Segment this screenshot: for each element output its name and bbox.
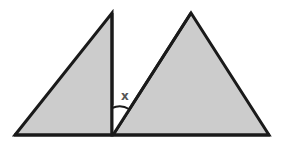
- angle-x-label: x: [121, 89, 129, 103]
- right-triangle: [113, 13, 269, 135]
- geometry-diagram: x: [0, 0, 282, 144]
- diagram-svg: x: [0, 0, 282, 144]
- left-right-triangle: [15, 13, 112, 135]
